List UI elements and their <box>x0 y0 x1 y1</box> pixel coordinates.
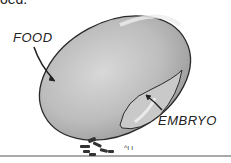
svg-text:^ı ı: ^ı ı <box>124 144 133 151</box>
seed-body <box>18 0 212 163</box>
seed-illustration: ^ı ı <box>0 0 231 163</box>
embryo-label: EMBRYO <box>158 113 217 128</box>
food-label: FOOD <box>13 30 53 45</box>
